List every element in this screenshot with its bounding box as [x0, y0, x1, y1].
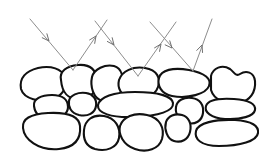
stone-top-5 [159, 69, 210, 97]
stone-bot-4 [165, 114, 190, 141]
diagram-canvas [0, 0, 268, 163]
stone-bot-3 [120, 114, 163, 150]
light-rays-group [30, 19, 212, 76]
reflected-ray-1 [73, 20, 107, 70]
physics-diagram-diffuse-reflection [0, 0, 268, 163]
ray-pair-left [30, 19, 107, 70]
stone-mid-5 [206, 99, 255, 119]
stone-bot-1-large [23, 113, 80, 149]
stone-wall-group [21, 65, 258, 151]
stone-bot-5-long [196, 120, 258, 146]
incident-ray-1 [30, 19, 73, 70]
stone-mid-2 [69, 93, 96, 116]
reflected-ray-1-arrowhead-icon [90, 36, 96, 43]
incident-ray-3-arrowhead-icon [165, 41, 172, 48]
stone-bot-2 [84, 116, 120, 150]
